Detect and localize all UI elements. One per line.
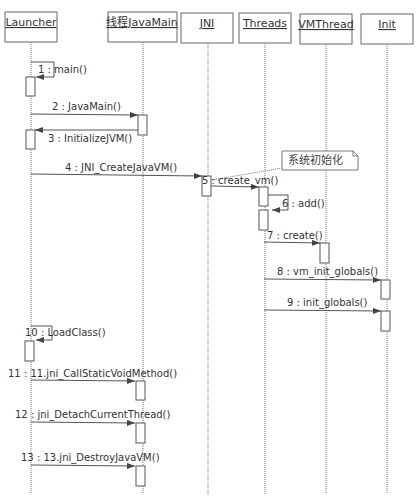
message-6[interactable]: 6 : add() [268,195,325,210]
message-label: 3 : InitializeJVM() [48,133,132,144]
activation-threads-2 [259,210,268,230]
participant-init[interactable]: Init [361,14,413,44]
activation-launcher-1 [26,77,35,96]
participant-label: Threads [242,17,287,30]
participant-javamain[interactable]: 线程JavaMain [106,12,178,42]
activation-vmthread-1 [320,243,329,263]
activation-launcher-3 [25,341,34,361]
message-2[interactable]: 2 : JavaMain() [31,101,138,115]
participant-label: JNI [199,17,215,30]
message-label: 11 : 11.jni_CallStaticVoidMethod() [8,368,177,380]
message-12[interactable]: 12 : jni_DetachCurrentThread() [15,409,171,423]
message-4[interactable]: 4 : JNI_CreateJavaVM() [31,162,202,176]
message-3[interactable]: 3 : InitializeJVM() [35,130,138,144]
message-label: 9 : init_globals() [287,297,368,309]
message-label: 6 : add() [282,198,325,209]
activation-javamain-4 [136,466,145,486]
note-text: 系统初始化 [288,153,343,167]
message-label: 8 : vm_init_globals() [277,266,378,278]
message-label: 2 : JavaMain() [52,101,121,112]
message-5[interactable]: 5 : create_vm() [202,175,278,187]
participant-threads[interactable]: Threads [239,13,291,43]
participant-label: Launcher [5,16,57,29]
message-label: 7 : create() [267,230,323,241]
message-13[interactable]: 13 : 13.jni_DestroyJavaVM() [21,452,160,466]
participant-label: VMThread [298,18,353,31]
message-1[interactable]: 1 : main() [31,62,87,77]
message-label: 1 : main() [38,64,87,75]
activation-threads-1 [259,187,268,206]
message-9[interactable]: 9 : init_globals() [264,297,381,311]
message-8[interactable]: 8 : vm_init_globals() [264,266,381,280]
activation-launcher-2 [26,130,35,149]
sequence-diagram: Launcher 线程JavaMain JNI Threads VMThread… [0,0,419,504]
message-label: 12 : jni_DetachCurrentThread() [15,409,171,421]
message-label: 10 : LoadClass() [25,327,106,338]
message-7[interactable]: 7 : create() [264,230,323,243]
activation-javamain-2 [136,381,145,400]
message-label: 5 : create_vm() [202,175,278,187]
participant-label: 线程JavaMain [106,15,178,29]
message-label: 13 : 13.jni_DestroyJavaVM() [21,452,160,464]
activation-javamain-1 [138,115,147,135]
participant-launcher[interactable]: Launcher [5,12,57,42]
activation-javamain-3 [136,423,145,443]
participant-jni[interactable]: JNI [181,13,233,43]
activation-init-2 [381,311,390,331]
message-label: 4 : JNI_CreateJavaVM() [65,162,177,174]
message-11[interactable]: 11 : 11.jni_CallStaticVoidMethod() [8,368,177,381]
message-10[interactable]: 10 : LoadClass() [25,326,106,340]
participant-vmthread[interactable]: VMThread [298,14,353,44]
activation-init-1 [381,280,390,299]
participant-label: Init [378,18,396,31]
